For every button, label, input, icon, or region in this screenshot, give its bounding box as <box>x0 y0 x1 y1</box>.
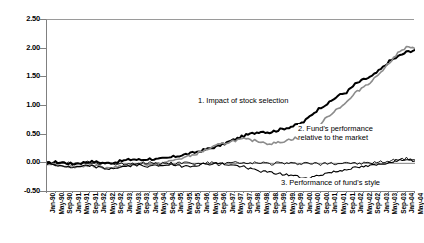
y-tick-mark <box>40 162 46 163</box>
x-tick-mark <box>371 191 372 193</box>
x-tick-mark <box>405 191 406 193</box>
y-tick-mark <box>40 134 46 135</box>
series-line <box>47 46 415 168</box>
x-tick-label: Jan-95 <box>177 193 184 213</box>
x-tick-label: Jan-00 <box>306 193 313 213</box>
x-tick-label: Jan-02 <box>357 193 364 213</box>
y-tick-mark <box>40 105 46 106</box>
x-tick-label: Jan-92 <box>100 193 107 213</box>
y-tick-mark <box>40 19 46 20</box>
x-tick-mark <box>303 191 304 193</box>
x-tick-mark <box>251 191 252 193</box>
x-tick-mark <box>217 191 218 193</box>
x-tick-mark <box>269 191 270 193</box>
x-tick-label: Sep-96 <box>220 193 227 214</box>
y-axis-labels: 2.502.001.501.000.500.00-0.50 <box>8 0 40 243</box>
x-axis-labels: Jan-90May-90Sep-90Jan-91May-91Sep-91Jan-… <box>46 193 414 243</box>
y-tick-label: 1.00 <box>10 101 40 109</box>
x-tick-label: Sep-90 <box>66 193 73 214</box>
plot-svg <box>47 20 415 192</box>
x-tick-mark <box>97 191 98 193</box>
x-tick-mark <box>234 191 235 193</box>
series-line <box>47 50 415 165</box>
x-tick-label: May-92 <box>109 193 116 214</box>
x-tick-mark <box>114 191 115 193</box>
x-tick-label: May-03 <box>391 193 398 214</box>
x-tick-mark <box>89 191 90 193</box>
y-tick-mark <box>40 76 46 77</box>
x-tick-mark <box>157 191 158 193</box>
annotation-stock-selection: 1. Impact of stock selection <box>198 96 288 105</box>
annotation-2-line1: 2. Fund's performance <box>298 124 373 133</box>
x-tick-mark <box>311 191 312 193</box>
x-tick-label: May-96 <box>212 193 219 214</box>
x-tick-label: Jan-01 <box>331 193 338 213</box>
x-tick-mark <box>63 191 64 193</box>
x-tick-mark <box>277 191 278 193</box>
x-tick-label: May-00 <box>314 193 321 214</box>
x-tick-label: Sep-91 <box>92 193 99 214</box>
x-tick-mark <box>209 191 210 193</box>
x-tick-label: May-91 <box>83 193 90 214</box>
x-tick-label: May-93 <box>135 193 142 214</box>
x-tick-mark <box>226 191 227 193</box>
annotation-3-text: 3. Performance of fund's style <box>281 178 380 187</box>
x-tick-mark <box>380 191 381 193</box>
y-tick-mark <box>40 191 46 192</box>
plot-area <box>46 19 414 191</box>
y-tick-label: 2.50 <box>10 15 40 23</box>
x-tick-mark <box>243 191 244 193</box>
x-tick-label: Jan-90 <box>49 193 56 213</box>
x-tick-label: Jan-03 <box>383 193 390 213</box>
y-tick-label: 0.50 <box>10 130 40 138</box>
x-tick-label: Sep-03 <box>400 193 407 214</box>
x-tick-label: Sep-94 <box>169 193 176 214</box>
x-tick-label: May-99 <box>289 193 296 214</box>
x-tick-label: Jan-98 <box>254 193 261 213</box>
x-tick-label: May-97 <box>237 193 244 214</box>
x-tick-mark <box>46 191 47 193</box>
x-tick-label: Sep-93 <box>143 193 150 214</box>
x-tick-label: May-02 <box>366 193 373 214</box>
x-tick-label: Jan-99 <box>280 193 287 213</box>
x-tick-mark <box>363 191 364 193</box>
x-tick-mark <box>294 191 295 193</box>
x-tick-mark <box>337 191 338 193</box>
x-tick-mark <box>140 191 141 193</box>
x-tick-label: Jan-94 <box>152 193 159 213</box>
x-tick-mark <box>260 191 261 193</box>
x-tick-mark <box>320 191 321 193</box>
x-tick-label: May-04 <box>417 193 424 214</box>
x-tick-mark <box>200 191 201 193</box>
x-tick-label: May-01 <box>340 193 347 214</box>
x-tick-mark <box>183 191 184 193</box>
annotation-fund-style: 3. Performance of fund's style <box>281 178 380 187</box>
x-tick-mark <box>354 191 355 193</box>
x-tick-label: Sep-99 <box>297 193 304 214</box>
x-tick-label: Jan-93 <box>126 193 133 213</box>
x-tick-mark <box>123 191 124 193</box>
annotation-1-text: 1. Impact of stock selection <box>198 96 288 105</box>
y-tick-label: 0.00 <box>10 158 40 166</box>
y-tick-label: 2.00 <box>10 44 40 52</box>
x-tick-label: Jan-04 <box>408 193 415 213</box>
x-tick-label: May-90 <box>58 193 65 214</box>
x-tick-label: Sep-92 <box>117 193 124 214</box>
x-tick-label: Sep-00 <box>323 193 330 214</box>
x-tick-mark <box>72 191 73 193</box>
x-tick-mark <box>414 191 415 193</box>
annotation-2-line2: relative to the market <box>298 133 373 142</box>
x-tick-mark <box>388 191 389 193</box>
x-tick-label: Sep-02 <box>374 193 381 214</box>
x-tick-label: May-95 <box>186 193 193 214</box>
y-tick-label: 1.50 <box>10 72 40 80</box>
y-tick-mark <box>40 48 46 49</box>
x-tick-mark <box>346 191 347 193</box>
x-tick-label: May-94 <box>160 193 167 214</box>
x-tick-mark <box>106 191 107 193</box>
annotation-fund-performance: 2. Fund's performance relative to the ma… <box>298 124 373 142</box>
x-tick-mark <box>174 191 175 193</box>
x-tick-label: Jan-97 <box>229 193 236 213</box>
x-tick-label: Sep-98 <box>272 193 279 214</box>
x-tick-mark <box>55 191 56 193</box>
